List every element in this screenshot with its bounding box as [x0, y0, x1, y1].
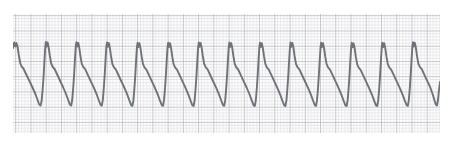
ecg-strip-root — [0, 0, 450, 147]
ecg-paper — [0, 0, 450, 147]
ecg-chart-svg — [0, 0, 450, 147]
